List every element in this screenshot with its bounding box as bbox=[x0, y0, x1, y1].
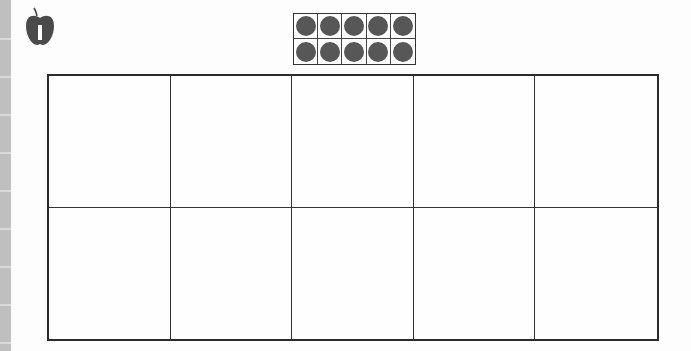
answer-box[interactable] bbox=[292, 76, 414, 208]
counter-dot bbox=[344, 16, 364, 36]
strip-divider bbox=[0, 76, 11, 78]
counter-dot bbox=[368, 42, 388, 62]
ten-frame-cell bbox=[318, 14, 342, 39]
answer-box[interactable] bbox=[49, 76, 171, 208]
counter-dot bbox=[393, 42, 413, 62]
ten-frame-cell bbox=[294, 39, 318, 64]
page-edge-strip bbox=[0, 0, 11, 351]
counter-dot bbox=[320, 16, 340, 36]
apple-icon bbox=[24, 6, 56, 48]
counter-dot bbox=[368, 16, 388, 36]
counter-dot bbox=[296, 42, 316, 62]
counter-dot bbox=[296, 16, 316, 36]
strip-divider bbox=[0, 228, 11, 230]
strip-divider bbox=[0, 304, 11, 306]
ten-frame-cell bbox=[342, 39, 366, 64]
answer-box[interactable] bbox=[171, 76, 293, 208]
answer-box[interactable] bbox=[414, 76, 536, 208]
ten-frame-cell bbox=[391, 39, 415, 64]
answer-box[interactable] bbox=[171, 208, 293, 340]
ten-frame-cell bbox=[367, 14, 391, 39]
answer-box[interactable] bbox=[535, 76, 657, 208]
strip-divider bbox=[0, 114, 11, 116]
ten-frame-cell bbox=[294, 14, 318, 39]
strip-divider bbox=[0, 152, 11, 154]
answer-box[interactable] bbox=[414, 208, 536, 340]
ten-frame-cell bbox=[367, 39, 391, 64]
strip-divider bbox=[0, 342, 11, 344]
counter-dot bbox=[344, 42, 364, 62]
answer-box[interactable] bbox=[292, 208, 414, 340]
strip-divider bbox=[0, 266, 11, 268]
strip-divider bbox=[0, 38, 11, 40]
ten-frame-cell bbox=[342, 14, 366, 39]
ten-frame-cell bbox=[391, 14, 415, 39]
strip-divider bbox=[0, 190, 11, 192]
answer-grid bbox=[47, 74, 659, 341]
answer-box[interactable] bbox=[49, 208, 171, 340]
answer-box[interactable] bbox=[535, 208, 657, 340]
ten-frame bbox=[293, 13, 416, 65]
counter-dot bbox=[393, 16, 413, 36]
counter-dot bbox=[320, 42, 340, 62]
ten-frame-cell bbox=[318, 39, 342, 64]
